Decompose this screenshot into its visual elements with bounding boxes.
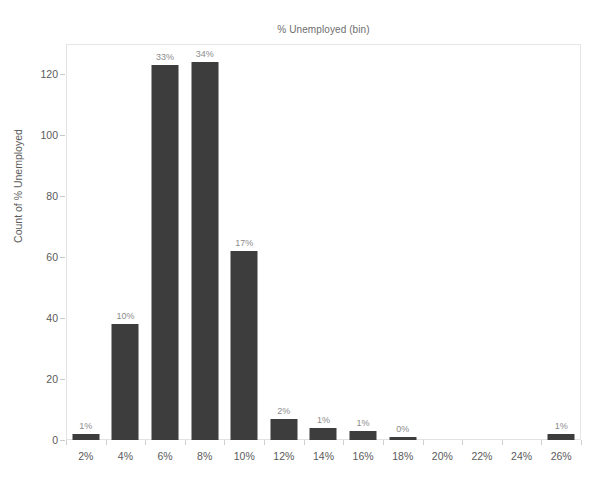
y-tick-label: 80 [22, 191, 58, 201]
y-tick-label: 40 [22, 313, 58, 323]
y-tick-mark [60, 257, 65, 258]
x-tick-mark [185, 440, 186, 445]
bar-value-label: 0% [396, 424, 409, 434]
bar[interactable] [231, 251, 258, 440]
x-tick-mark [541, 440, 542, 445]
bar-group[interactable]: 1% [343, 44, 383, 440]
bar-group[interactable]: 33% [145, 44, 185, 440]
y-tick-mark [60, 318, 65, 319]
bar[interactable] [112, 324, 139, 440]
bar-value-label: 10% [116, 311, 134, 321]
bar[interactable] [72, 434, 99, 440]
y-tick-label: 120 [22, 69, 58, 79]
bar-value-label: 1% [357, 418, 370, 428]
bar-group[interactable]: 17% [224, 44, 264, 440]
x-tick-label: 26% [531, 450, 591, 462]
bar-chart: % Unemployed (bin) Count of % Unemployed… [0, 0, 614, 483]
bar[interactable] [310, 428, 337, 440]
x-tick-mark [66, 440, 67, 445]
bar-value-label: 1% [317, 415, 330, 425]
x-tick-mark [462, 440, 463, 445]
x-tick-mark [264, 440, 265, 445]
bar-group[interactable]: 10% [106, 44, 146, 440]
chart-title: % Unemployed (bin) [66, 24, 581, 35]
bar[interactable] [152, 65, 179, 440]
bar[interactable] [389, 437, 416, 440]
x-tick-mark [581, 440, 582, 445]
y-tick-label: 100 [22, 130, 58, 140]
x-tick-mark [423, 440, 424, 445]
y-tick-mark [60, 74, 65, 75]
bar-value-label: 1% [79, 421, 92, 431]
x-tick-mark [383, 440, 384, 445]
bars-layer: 1%10%33%34%17%2%1%1%0%1% [66, 44, 581, 440]
y-axis-title: Count of % Unemployed [12, 76, 24, 296]
x-tick-mark [343, 440, 344, 445]
bar-value-label: 34% [196, 49, 214, 59]
bar-value-label: 2% [277, 406, 290, 416]
x-tick-mark [106, 440, 107, 445]
x-tick-mark [304, 440, 305, 445]
x-tick-mark [145, 440, 146, 445]
bar-group[interactable] [462, 44, 502, 440]
bar-group[interactable]: 0% [383, 44, 423, 440]
bar-group[interactable]: 1% [541, 44, 581, 440]
bar-value-label: 17% [235, 238, 253, 248]
y-tick-label: 0 [22, 435, 58, 445]
bar-group[interactable]: 2% [264, 44, 304, 440]
y-tick-mark [60, 440, 65, 441]
bar[interactable] [548, 434, 575, 440]
bar-value-label: 33% [156, 52, 174, 62]
bar[interactable] [350, 431, 377, 440]
y-tick-mark [60, 379, 65, 380]
y-tick-label: 20 [22, 374, 58, 384]
y-tick-mark [60, 196, 65, 197]
bar-value-label: 1% [555, 421, 568, 431]
bar-group[interactable]: 1% [304, 44, 344, 440]
bar-group[interactable]: 34% [185, 44, 225, 440]
bar[interactable] [191, 62, 218, 440]
bar-group[interactable] [502, 44, 542, 440]
x-tick-mark [502, 440, 503, 445]
bar-group[interactable] [423, 44, 463, 440]
y-tick-mark [60, 135, 65, 136]
y-tick-label: 60 [22, 252, 58, 262]
bar-group[interactable]: 1% [66, 44, 106, 440]
bar[interactable] [270, 419, 297, 440]
x-tick-mark [224, 440, 225, 445]
